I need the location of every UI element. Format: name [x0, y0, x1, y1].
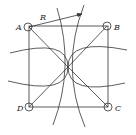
label-d: D [16, 104, 24, 113]
label-c: C [115, 104, 121, 113]
arc-right-vertical [72, 5, 85, 127]
geometry-diagram: A B C D R [0, 0, 136, 135]
label-a: A [15, 23, 22, 32]
arc-bottom-horizontal [8, 67, 125, 87]
radius-arrow-line [29, 14, 82, 27]
diagonal-a [29, 27, 68, 67]
diagram: A B C D R [0, 0, 136, 135]
label-b: B [113, 23, 120, 32]
circle-a [24, 23, 32, 31]
label-r: R [39, 13, 46, 22]
arc-left-vertical [53, 8, 65, 125]
arrow-head-icon [77, 14, 82, 17]
arc-top-horizontal [10, 46, 127, 67]
diagonal-d [29, 67, 68, 107]
